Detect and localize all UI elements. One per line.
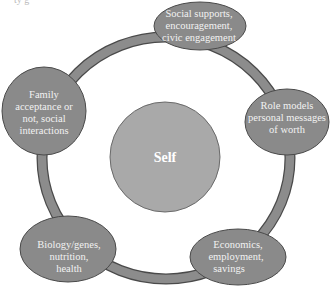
node-economics: Economics, employment, savings <box>190 229 286 285</box>
node-label-line: Economics, <box>213 239 262 250</box>
node-label-line: Role models <box>261 100 314 111</box>
node-label-line: nutrition, <box>50 251 89 262</box>
self-label: Self <box>154 150 177 165</box>
node-label-line: acceptance or <box>15 101 73 112</box>
node-family: Family acceptance or not, social interac… <box>2 67 86 155</box>
node-label-line: interactions <box>20 125 69 136</box>
center-node-self: Self <box>110 102 220 212</box>
node-label-line: civic engagement <box>162 32 236 43</box>
node-label-line: encouragement, <box>166 20 233 31</box>
node-label-line: Social supports, <box>165 8 232 19</box>
node-label-line: savings <box>213 263 245 274</box>
node-biology: Biology/genes, nutrition, health <box>20 216 116 282</box>
node-role-models: Role models personal messages of worth <box>245 89 329 155</box>
self-influences-diagram: Self Social supports, encouragement, civ… <box>0 0 330 291</box>
node-label-line: Biology/genes, <box>37 239 100 250</box>
node-label-line: employment, <box>208 251 263 262</box>
node-label-line: health <box>56 263 82 274</box>
node-label-line: not, social <box>22 113 65 124</box>
node-label-line: Family <box>29 89 60 100</box>
node-label-line: personal messages <box>248 112 326 123</box>
node-social-supports: Social supports, encouragement, civic en… <box>154 2 246 50</box>
node-label-line: of worth <box>269 124 306 135</box>
